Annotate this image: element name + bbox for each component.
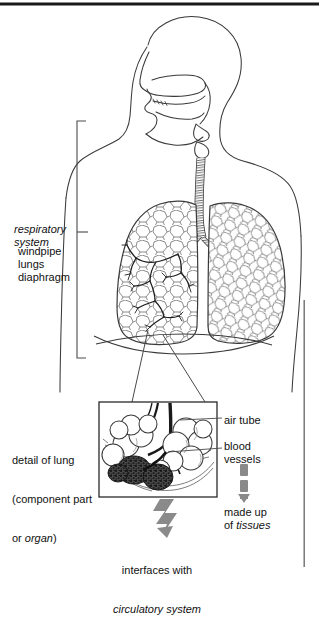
left-lung xyxy=(117,201,198,344)
interfaces-line-2: circulatory system xyxy=(113,603,201,616)
detail-caption-line-2: (component part xyxy=(12,493,92,506)
label-system-parts: windpipe lungs diaphragm xyxy=(18,245,70,284)
interfaces-line-1: interfaces with xyxy=(113,564,201,577)
detail-caption-paren: ) xyxy=(53,532,57,544)
label-blood-vessels: blood vessels xyxy=(224,440,261,466)
detail-caption-line-1: detail of lung xyxy=(12,454,92,467)
label-detail-of-lung: detail of lung (component part or organ) xyxy=(12,428,92,571)
detail-caption-or: or xyxy=(12,532,25,544)
detail-caption-organ: organ xyxy=(25,532,53,544)
label-made-up-of-tissues: made up of tissues xyxy=(224,506,270,532)
label-interfaces-with: interfaces with circulatory system xyxy=(113,538,201,619)
right-lung xyxy=(208,203,285,344)
made-up-tissues: tissues xyxy=(236,519,270,531)
zigzag-down-arrow xyxy=(153,499,177,538)
trachea xyxy=(199,158,202,238)
label-air-tube: air tube xyxy=(224,414,261,427)
dashed-down-arrow xyxy=(238,464,250,503)
detail-caption-line-3: or organ) xyxy=(12,532,92,545)
